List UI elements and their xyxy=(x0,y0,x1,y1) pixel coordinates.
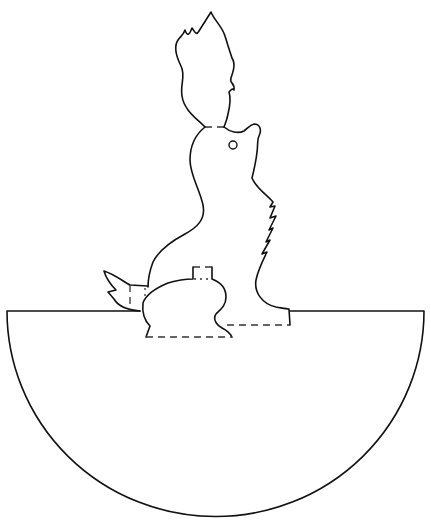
squirrel-eye xyxy=(229,141,237,149)
semicircle-base xyxy=(7,311,424,516)
papercraft-template: Squirrel papercraft cut-out template xyxy=(0,0,431,523)
back-tail-tip xyxy=(104,271,148,311)
hind-leg xyxy=(143,267,232,337)
template-drawing xyxy=(0,0,431,523)
tail-flame xyxy=(176,12,234,127)
squirrel-body xyxy=(148,124,290,325)
